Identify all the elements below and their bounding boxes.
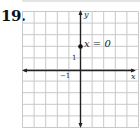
coordinate-grid xyxy=(0,0,140,138)
y-axis-up-arrow-icon xyxy=(79,10,83,15)
point-annotation: x = 0 xyxy=(84,38,111,49)
x-axis-label: x xyxy=(131,72,136,81)
x-tick-label-neg1: −1 xyxy=(60,72,70,80)
y-tick-label-1: 1 xyxy=(72,54,76,62)
y-axis-label: y xyxy=(84,10,89,19)
data-point xyxy=(78,44,83,49)
